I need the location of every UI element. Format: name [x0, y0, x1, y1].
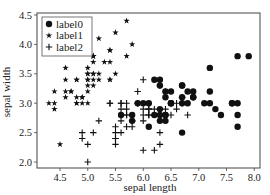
- label0-point: [118, 112, 124, 118]
- legend-label: label2: [56, 41, 83, 53]
- label0-point: [184, 88, 190, 94]
- label0-point: [201, 100, 207, 106]
- y-tick-label: 4.5: [19, 10, 32, 21]
- x-tick-label: 5.0: [81, 172, 94, 183]
- label0-point: [151, 76, 157, 82]
- legend-label: label0: [56, 18, 83, 30]
- label0-point: [246, 53, 252, 59]
- label0-point: [151, 112, 157, 118]
- x-tick-label: 5.5: [109, 172, 122, 183]
- label0-point: [168, 88, 174, 94]
- label0-point: [234, 112, 240, 118]
- label0-point: [162, 112, 168, 118]
- label0-legend-marker: [46, 21, 52, 27]
- label0-point: [218, 112, 224, 118]
- label0-point: [234, 100, 240, 106]
- label0-point: [207, 65, 213, 71]
- label0-point: [157, 118, 163, 124]
- label0-point: [157, 76, 163, 82]
- y-tick-label: 3.0: [19, 98, 32, 109]
- label0-point: [179, 129, 185, 135]
- label0-point: [212, 106, 218, 112]
- x-tick-label: 7.5: [220, 172, 233, 183]
- y-axis-ticks: 2.02.53.03.54.04.5: [19, 10, 37, 168]
- label0-point: [179, 82, 185, 88]
- label0-point: [162, 118, 168, 124]
- x-tick-label: 8.0: [248, 172, 261, 183]
- label0-point: [184, 100, 190, 106]
- legend-label: label1: [56, 29, 83, 41]
- label0-point: [190, 88, 196, 94]
- legend: label0label1label2: [42, 17, 92, 56]
- label0-point: [234, 124, 240, 130]
- label0-point: [140, 100, 146, 106]
- label0-point: [157, 112, 163, 118]
- y-tick-label: 2.0: [19, 157, 32, 168]
- label0-point: [129, 112, 135, 118]
- label0-point: [234, 53, 240, 59]
- x-tick-label: 4.5: [53, 172, 66, 183]
- x-axis-label: sepal length: [124, 181, 177, 193]
- label0-point: [162, 94, 168, 100]
- y-tick-label: 4.0: [19, 39, 32, 50]
- label0-point: [229, 100, 235, 106]
- label0-point: [157, 106, 163, 112]
- label0-point: [207, 88, 213, 94]
- label0-point: [146, 124, 152, 130]
- y-tick-label: 3.5: [19, 68, 32, 79]
- y-axis-label: sepal width: [0, 66, 12, 117]
- label0-point: [207, 100, 213, 106]
- y-tick-label: 2.5: [19, 127, 32, 138]
- label0-point: [168, 100, 174, 106]
- scatter-chart: 4.55.05.56.06.57.07.58.0 2.02.53.03.54.0…: [0, 0, 270, 195]
- x-tick-label: 7.0: [192, 172, 205, 183]
